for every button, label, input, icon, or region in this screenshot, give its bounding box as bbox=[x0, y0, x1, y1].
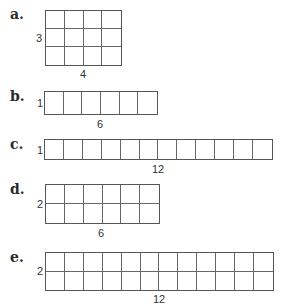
grid-cell bbox=[84, 204, 103, 223]
grid-cell bbox=[121, 204, 140, 223]
grid-cell bbox=[253, 140, 272, 159]
grid-cell bbox=[140, 204, 159, 223]
grid-cell bbox=[216, 272, 235, 291]
row-count-label: 3 bbox=[36, 33, 42, 44]
grid-cell bbox=[64, 140, 83, 159]
row-count-label: 2 bbox=[37, 266, 43, 277]
row-count-label: 1 bbox=[37, 98, 43, 109]
grid-cell bbox=[215, 140, 234, 159]
grid-cell bbox=[121, 185, 140, 204]
grid-cell bbox=[254, 272, 273, 291]
grid-cell bbox=[121, 140, 140, 159]
grid-cell bbox=[46, 253, 65, 272]
grid-cell bbox=[177, 140, 196, 159]
grid-cell bbox=[65, 11, 84, 29]
grid-cell bbox=[45, 140, 64, 159]
grid-cell bbox=[102, 11, 121, 29]
grid-cell bbox=[141, 253, 160, 272]
item-letter: a. bbox=[10, 6, 24, 22]
grid-cell bbox=[102, 47, 121, 65]
grid-cell bbox=[45, 92, 64, 114]
grid-cell bbox=[103, 204, 122, 223]
item-letter: e. bbox=[10, 249, 24, 265]
grid-cell bbox=[138, 92, 157, 114]
grid-cell bbox=[65, 29, 84, 47]
rectangle-grid bbox=[45, 184, 160, 224]
grid-cell bbox=[254, 253, 273, 272]
grid-cell bbox=[65, 272, 84, 291]
grid-cell bbox=[65, 47, 84, 65]
grid-cell bbox=[83, 140, 102, 159]
grid-cell bbox=[234, 140, 253, 159]
grid-cell bbox=[120, 92, 139, 114]
grid-cell bbox=[84, 47, 103, 65]
grid-cell bbox=[84, 185, 103, 204]
grid-cell bbox=[141, 272, 160, 291]
grid-cell bbox=[84, 11, 103, 29]
item-letter: b. bbox=[10, 88, 25, 104]
grid-cell bbox=[103, 253, 122, 272]
row-count-label: 1 bbox=[37, 145, 43, 156]
rectangle-grid bbox=[44, 139, 273, 160]
grid-cell bbox=[122, 272, 141, 291]
grid-cell bbox=[46, 204, 65, 223]
grid-cell bbox=[65, 253, 84, 272]
grid-cell bbox=[65, 204, 84, 223]
grid-cell bbox=[82, 92, 101, 114]
grid-cell bbox=[158, 140, 177, 159]
grid-cell bbox=[84, 253, 103, 272]
rectangle-grid bbox=[44, 91, 158, 115]
rectangle-grid bbox=[45, 252, 274, 291]
grid-cell bbox=[101, 92, 120, 114]
grid-cell bbox=[65, 185, 84, 204]
column-count-label: 4 bbox=[80, 69, 86, 80]
grid-cell bbox=[178, 272, 197, 291]
grid-cell bbox=[46, 272, 65, 291]
grid-cell bbox=[216, 253, 235, 272]
grid-cell bbox=[197, 253, 216, 272]
grid-cell bbox=[140, 185, 159, 204]
grid-cell bbox=[140, 140, 159, 159]
column-count-label: 6 bbox=[97, 119, 103, 130]
grid-cell bbox=[64, 92, 83, 114]
item-letter: c. bbox=[10, 136, 23, 152]
grid-cell bbox=[159, 272, 178, 291]
grid-cell bbox=[102, 29, 121, 47]
column-count-label: 12 bbox=[153, 294, 165, 305]
grid-cell bbox=[84, 29, 103, 47]
grid-cell bbox=[84, 272, 103, 291]
grid-cell bbox=[196, 140, 215, 159]
column-count-label: 12 bbox=[152, 164, 164, 175]
grid-cell bbox=[103, 272, 122, 291]
grid-cell bbox=[46, 29, 65, 47]
grid-cell bbox=[197, 272, 216, 291]
rectangle-grid bbox=[45, 10, 122, 66]
grid-cell bbox=[46, 185, 65, 204]
grid-cell bbox=[46, 47, 65, 65]
grid-cell bbox=[235, 272, 254, 291]
item-letter: d. bbox=[10, 181, 25, 197]
grid-cell bbox=[178, 253, 197, 272]
grid-cell bbox=[103, 185, 122, 204]
grid-cell bbox=[46, 11, 65, 29]
grid-cell bbox=[122, 253, 141, 272]
grid-cell bbox=[102, 140, 121, 159]
row-count-label: 2 bbox=[37, 199, 43, 210]
grid-cell bbox=[159, 253, 178, 272]
grid-cell bbox=[235, 253, 254, 272]
column-count-label: 6 bbox=[98, 228, 104, 239]
